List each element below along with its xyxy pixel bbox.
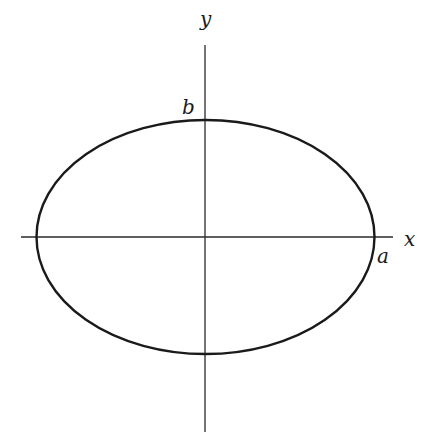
y-axis-label: y bbox=[199, 7, 212, 31]
ellipse-diagram: y b x a bbox=[0, 0, 434, 444]
semi-major-label-a: a bbox=[377, 244, 389, 268]
semi-minor-label-b: b bbox=[182, 95, 195, 119]
x-axis-label: x bbox=[404, 227, 415, 251]
